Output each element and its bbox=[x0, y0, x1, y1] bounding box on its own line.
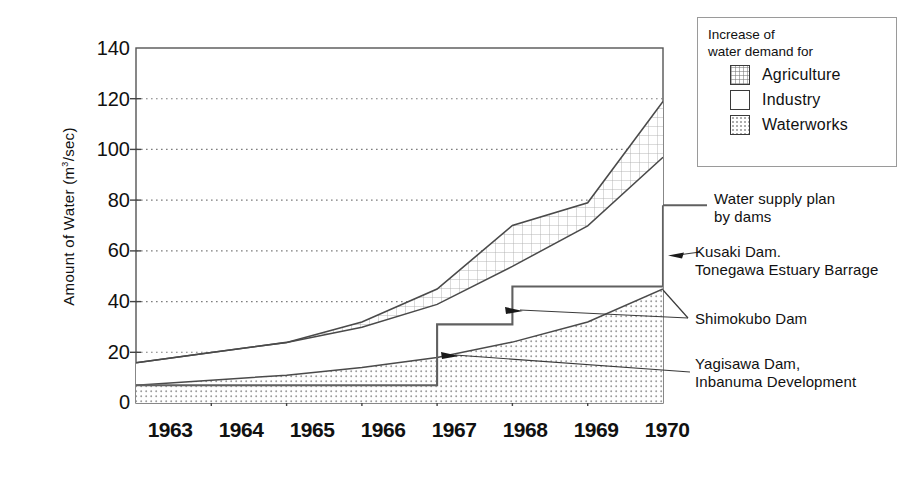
annotation-shimokubo-dam-line1: Shimokubo Dam bbox=[695, 310, 807, 328]
annotation-kusaki-dam: Kusaki Dam. Tonegawa Estuary Barrage bbox=[695, 243, 878, 279]
chart-canvas: Amount of Water (m3/sec) 140 120 100 80 … bbox=[0, 0, 914, 486]
legend-item-industry: Industry bbox=[730, 90, 886, 110]
legend-title-line2: water demand for bbox=[708, 43, 886, 60]
legend-swatch-waterworks bbox=[730, 115, 750, 135]
annotation-shimokubo-dam: Shimokubo Dam bbox=[695, 310, 807, 328]
annotation-yagisawa-dam-line1: Yagisawa Dam, bbox=[695, 355, 856, 373]
legend-box: Increase of water demand for Agriculture… bbox=[697, 17, 897, 167]
legend-label-agriculture: Agriculture bbox=[762, 66, 841, 84]
annotation-water-supply-plan-line1: Water supply plan bbox=[714, 190, 835, 208]
annotation-kusaki-dam-line1: Kusaki Dam. bbox=[695, 243, 878, 261]
annotation-yagisawa-dam: Yagisawa Dam, Inbanuma Development bbox=[695, 355, 856, 391]
annotation-yagisawa-dam-line2: Inbanuma Development bbox=[695, 373, 856, 391]
annotation-water-supply-plan: Water supply plan by dams bbox=[714, 190, 835, 226]
legend-label-industry: Industry bbox=[762, 91, 821, 109]
annotation-kusaki-dam-line2: Tonegawa Estuary Barrage bbox=[695, 261, 878, 279]
legend-label-waterworks: Waterworks bbox=[762, 116, 848, 134]
legend-item-agriculture: Agriculture bbox=[730, 65, 886, 85]
legend-swatch-agriculture bbox=[730, 65, 750, 85]
legend-item-waterworks: Waterworks bbox=[730, 115, 886, 135]
annotation-water-supply-plan-line2: by dams bbox=[714, 208, 835, 226]
legend-title: Increase of water demand for bbox=[708, 26, 886, 60]
arrowhead-kusaki bbox=[668, 253, 684, 259]
legend-title-line1: Increase of bbox=[708, 26, 886, 43]
legend-swatch-industry bbox=[730, 90, 750, 110]
